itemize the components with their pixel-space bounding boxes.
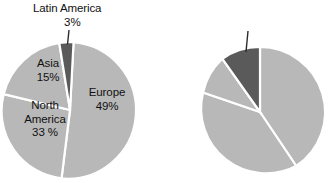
left-europe-label: Europe 49%	[76, 86, 138, 113]
left-latin-america-callout-label: Latin America	[33, 2, 101, 15]
left-asia-label: Asia 15%	[22, 57, 74, 84]
pie-charts-figure: Latin America 3% Europe 49% Asia 15% Nor…	[0, 0, 335, 183]
left-north-america-label: North America 33 %	[12, 99, 78, 140]
left-pie-chart: Latin America 3% Europe 49% Asia 15% Nor…	[0, 0, 167, 183]
right-pie-chart: Latin America 10% Europe 42% Asia 25% No…	[167, 0, 335, 183]
left-latin-america-callout-value: 3%	[64, 16, 81, 29]
right-pie-graphic	[167, 0, 335, 183]
